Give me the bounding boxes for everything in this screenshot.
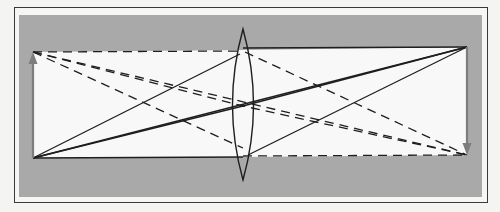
- lens-ray-diagram: [0, 0, 500, 212]
